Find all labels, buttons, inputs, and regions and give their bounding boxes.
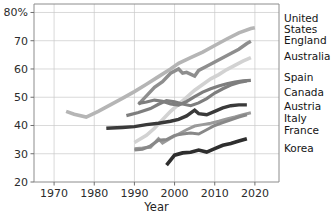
series-label-italy: Italy (284, 112, 307, 124)
series-labels: UnitedStatesEnglandAustraliaSpainCanadaA… (284, 12, 330, 154)
series-label-england: England (284, 34, 327, 46)
x-tick-label: 2020 (241, 187, 269, 200)
y-axis-tick-labels: 20304050607080% (4, 6, 28, 189)
line-chart: 20304050607080% 197019801990200020102020… (0, 0, 333, 213)
x-tick-label: 1990 (120, 187, 148, 200)
x-axis-tick-labels: 197019801990200020102020 (40, 187, 269, 200)
y-tick-label: 70 (14, 35, 28, 48)
series-label-france: France (284, 124, 319, 136)
x-axis-title: Year (143, 200, 169, 213)
series-label-austria: Austria (284, 100, 321, 112)
y-tick-label: 60 (14, 63, 28, 76)
x-tick-label: 2000 (161, 187, 189, 200)
y-tick-label: 30 (14, 148, 28, 161)
series-label-korea: Korea (284, 142, 314, 154)
y-tick-label: 40 (14, 119, 28, 132)
x-tick-label: 1970 (40, 187, 68, 200)
y-tick-label: 20 (14, 176, 28, 189)
series-label-spain: Spain (284, 71, 313, 83)
series-label-australia: Australia (284, 50, 330, 62)
y-tick-label: 50 (14, 91, 28, 104)
y-tick-label: 80% (4, 6, 28, 19)
x-tick-label: 2010 (201, 187, 229, 200)
chart-canvas: 20304050607080% 197019801990200020102020… (0, 0, 333, 213)
series-label-canada: Canada (284, 86, 324, 98)
x-tick-label: 1980 (80, 187, 108, 200)
